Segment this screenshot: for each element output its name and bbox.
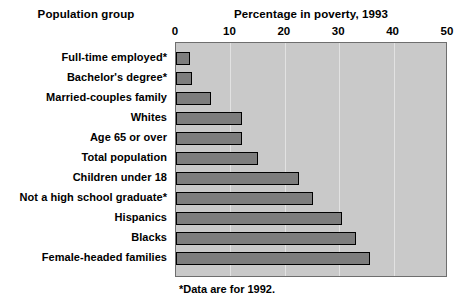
bar bbox=[176, 112, 242, 125]
x-tick-label-30: 30 bbox=[332, 25, 345, 37]
category-label: Not a high school graduate* bbox=[20, 187, 167, 207]
bar bbox=[176, 92, 211, 105]
bar bbox=[176, 232, 356, 245]
bar bbox=[176, 72, 192, 85]
bar bbox=[176, 52, 190, 65]
chart-title: Percentage in poverty, 1993 bbox=[175, 8, 447, 20]
bar bbox=[176, 152, 258, 165]
category-label: Married-couples family bbox=[46, 87, 167, 107]
bar-row bbox=[176, 248, 446, 268]
x-tick-label-50: 50 bbox=[441, 25, 454, 37]
category-label: Hispanics bbox=[115, 207, 167, 227]
population-group-heading: Population group bbox=[0, 8, 172, 20]
x-tick-label-10: 10 bbox=[223, 25, 236, 37]
x-tick-label-20: 20 bbox=[277, 25, 290, 37]
category-label: Total population bbox=[81, 147, 167, 167]
category-label: Full-time employed* bbox=[62, 47, 167, 67]
category-label: Whites bbox=[131, 107, 167, 127]
category-axis-labels: Full-time employed*Bachelor's degree*Mar… bbox=[0, 42, 171, 277]
category-label: Children under 18 bbox=[73, 167, 167, 187]
plot-area bbox=[175, 42, 447, 277]
category-label: Blacks bbox=[131, 227, 167, 247]
bar bbox=[176, 132, 242, 145]
bar-row bbox=[176, 228, 446, 248]
bar bbox=[176, 252, 370, 265]
bar bbox=[176, 192, 313, 205]
bar-row bbox=[176, 168, 446, 188]
x-tick-label-0: 0 bbox=[172, 25, 178, 37]
bar-row bbox=[176, 68, 446, 88]
category-label: Age 65 or over bbox=[90, 127, 167, 147]
bar-row bbox=[176, 188, 446, 208]
x-tick-label-40: 40 bbox=[386, 25, 399, 37]
bar-row bbox=[176, 208, 446, 228]
bar-row bbox=[176, 48, 446, 68]
poverty-bar-chart-figure: Population group Percentage in poverty, … bbox=[0, 0, 454, 304]
bar-series bbox=[176, 43, 446, 276]
bar-row bbox=[176, 88, 446, 108]
footnote: *Data are for 1992. bbox=[0, 283, 454, 295]
category-label: Female-headed families bbox=[42, 247, 167, 267]
bar bbox=[176, 172, 299, 185]
bar-row bbox=[176, 108, 446, 128]
category-label: Bachelor's degree* bbox=[67, 67, 167, 87]
x-axis-tick-labels: 01020304050 bbox=[0, 25, 454, 41]
bar bbox=[176, 212, 342, 225]
bar-row bbox=[176, 128, 446, 148]
bar-row bbox=[176, 148, 446, 168]
